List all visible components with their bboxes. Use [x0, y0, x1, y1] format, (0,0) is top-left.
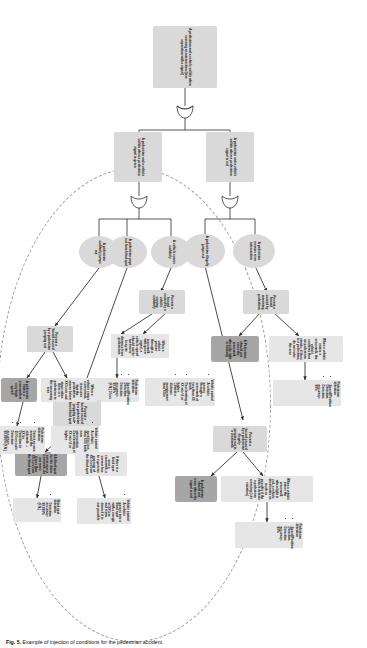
strategy-node-illegal-jump-out: Prevent a hazard caused by a pedestrian … [213, 426, 267, 452]
spec-node-blind-spot-detection: Blind spot detection Detection accuracy:… [13, 498, 61, 522]
or-gate-green [131, 196, 147, 208]
spec-node-pedestrian-detection-2: Pedestrian detection Speed/Position Dete… [235, 522, 303, 548]
solution-node-blinking-light: A Pedestrian should not cross the crossw… [211, 336, 259, 362]
spec-item: A vehicle passes into a blind spot with … [95, 503, 125, 523]
goal-root-label: A pedestrian and a vehicle collide when … [179, 28, 190, 86]
event-node-vehicle-sudden: A vehicle comes suddenly [151, 236, 191, 268]
spec-item: Detection accuracy: 99% [313, 385, 324, 405]
goal-red-label: A pedestrian and a vehicle collide when … [224, 134, 235, 180]
diagram-canvas: A pedestrian and a vehicle collide when … [0, 0, 367, 648]
spec-item: Detection in 1100cm cycle [13, 431, 20, 453]
solution-node-no-cross-red: A pedestrian should not cross when the s… [175, 476, 217, 502]
spec-node-pedestrian-detection-3: Pedestrian detection Speed/Position Dete… [93, 378, 139, 402]
solution-node-high-speed-entry: A pedestrian enters a crosswalk at very … [1, 378, 37, 402]
strategy-illegal-label: Prevent a hazard caused by a pedestrian … [229, 428, 251, 450]
context-red-light-label: When a vehicle enters the crosswalk when… [245, 478, 289, 500]
spec-title-3: Pedestrian detection [130, 379, 137, 400]
figure-caption: Fig. 5. Example of injection of conditio… [6, 639, 361, 646]
context-node-confirm-no-pedestrian: When a vehicle enters a crosswalk, the v… [269, 336, 343, 362]
spec-item: Detect an area around the sidewalk: + XX… [21, 431, 36, 453]
event-node-remaining-pedestrian: A pedestrian remains at an intersection [233, 234, 275, 268]
context-node-speed-distance: When a vehicle passes through a crosswal… [111, 334, 169, 358]
figure-caption-text: Example of injection of conditions for t… [22, 639, 163, 645]
connector-layer [0, 0, 367, 648]
spec-item: Speed/Position Detection [286, 527, 293, 547]
goal-node-root: A pedestrian and a vehicle collide when … [153, 26, 217, 88]
context-node-pedestrian-speed: When a vehicle enters a crosswalk, it en… [41, 378, 97, 402]
context-pedestrian-speed-label: When a vehicle enters a crosswalk, it en… [45, 380, 93, 400]
spec-item: Detection accuracy: 99% [275, 527, 286, 547]
strategy-node-jump-out: Prevent a hazard caused by a pedestrian … [27, 326, 73, 352]
event-sudden-jump-label: A pedestrian suddenly jumps out [93, 238, 104, 266]
spec-title-7: Pedestrian detection [36, 427, 43, 452]
spec-item: Detection accuracy: 99.99% (F.N.) 50cm [107, 383, 122, 401]
solution-blind-spot-label: If A blind spot for the driver exists ne… [26, 454, 56, 474]
spec-node-vehicle-control-1: Vehicle control A vehicle passes through… [145, 378, 215, 406]
solution-node-blind-spot-distance: If A blind spot for the driver exists ne… [15, 452, 67, 476]
spec-node-pedestrian-detection-1: Pedestrian detection Speed/Position Dete… [273, 380, 341, 406]
rotated-diagram-group: A pedestrian and a vehicle collide when … [0, 0, 367, 648]
context-confirm-label: When a vehicle enters a crosswalk, the v… [287, 338, 324, 360]
event-blind-spot-label: A pedestrian pops out from blind spot [123, 238, 130, 266]
event-vehicle-sudden-label: A vehicle comes suddenly [167, 238, 174, 266]
strategy-vehicle-sudden-label: Prevent a hazard caused by a vehicle com… [151, 292, 173, 312]
spec-title-5: Blind spot detection [52, 499, 59, 520]
strategy-node-vehicle-sudden: Prevent a hazard caused by a vehicle com… [139, 290, 185, 314]
solution-blinking-label: A Pedestrian should not cross the crossw… [224, 338, 246, 360]
event-remaining-label: A pedestrian remains at an intersection [248, 236, 259, 266]
strategy-jump-out-label: Prevent a hazard caused by a pedestrian … [43, 328, 58, 350]
goal-node-red-signal: A pedestrian and a vehicle collide when … [206, 132, 254, 182]
solution-high-speed-label: A pedestrian enters a crosswalk at very … [10, 380, 29, 400]
strategy-remaining-label: Prevent a hazard caused by remaining ped… [257, 292, 276, 312]
strategy-node-remaining-pedestrian: Prevent a hazard caused by remaining ped… [243, 290, 289, 314]
event-illegal-jump-label: A pedestrian illegally jumps out [200, 236, 207, 266]
spec-title-4: Vehicle control [210, 379, 214, 404]
context-speed-distance-label: When a vehicle passes through a crosswal… [116, 336, 164, 356]
or-gate-red [222, 196, 238, 208]
solution-no-cross-red-label: A pedestrian should not cross when the s… [189, 478, 204, 500]
spec-item: Detection accuracy: 99.999% (F.N.) [2, 431, 13, 453]
spec-item: Decelerating at XX m/s^2 or higher [176, 383, 187, 405]
spec-title-6: Vehicle control [126, 499, 130, 522]
spec-node-vehicle-control-2: Vehicle control A vehicle passes into a … [77, 498, 131, 524]
spec-title-8: Vehicle control [94, 427, 98, 452]
event-node-sudden-jump-out: A pedestrian suddenly jumps out [79, 236, 119, 268]
spec-item: Decelerating at XX m/s^2 or higher [63, 431, 74, 453]
spec-item: Speed/Position Detection [122, 383, 129, 401]
spec-node-pedestrian-detection-4: Pedestrian detection Detect an area arou… [0, 426, 45, 454]
spec-item: A vehicle speed is less than XXX km/h ne… [75, 431, 94, 453]
spec-title-2: Pedestrian detection [294, 523, 301, 546]
spec-item: Control a distance margin more than XXm [161, 383, 176, 405]
spec-item: Speed/Position Detection [324, 385, 331, 405]
context-node-camera-supervise: If there is a blind spot near a crosswal… [75, 452, 127, 476]
or-gate-root [177, 106, 193, 118]
figure-caption-label: Fig. 5. [6, 639, 21, 645]
spec-node-vehicle-control-3: Vehicle control A vehicle speed is less … [51, 426, 99, 454]
goal-green-label: A pedestrian and a vehicle collide when … [132, 134, 143, 180]
context-node-red-light-decelerate: When a vehicle enters the crosswalk when… [221, 476, 313, 502]
spec-title-1: Pedestrian detection [332, 381, 339, 404]
context-camera-label: If there is a blind spot near a crosswal… [84, 454, 117, 474]
goal-node-green-signal: A pedestrian and a vehicle collide when … [114, 132, 162, 182]
figure-canvas: A pedestrian and a vehicle collide when … [0, 0, 367, 648]
spec-item: A vehicle passes through a crosswalk at … [187, 383, 209, 405]
spec-item: Detection accuracy: 99.999% (F.N.) [37, 503, 52, 521]
